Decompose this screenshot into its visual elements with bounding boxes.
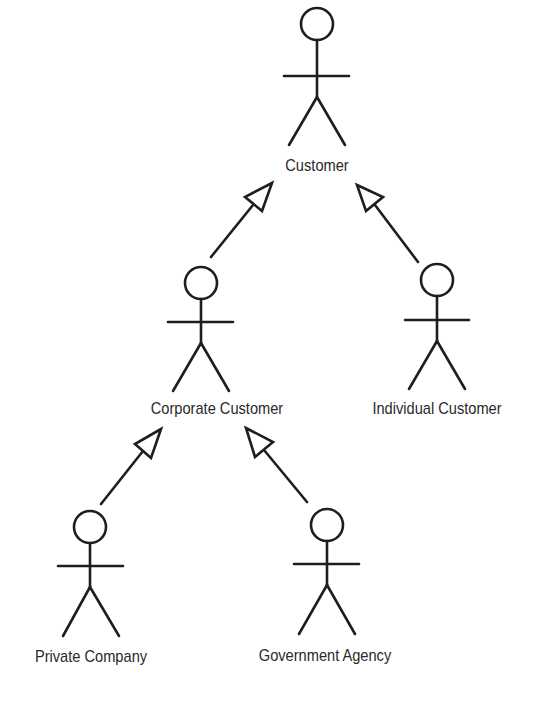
diagram-canvas	[0, 0, 543, 701]
actor-label-government-agency: Government Agency	[259, 646, 391, 666]
actor-leg-left	[289, 97, 317, 145]
arrow-line	[375, 205, 418, 262]
actor-leg-right	[437, 341, 465, 389]
actor-head	[301, 8, 333, 40]
hollow-triangle-arrowhead-icon	[246, 428, 273, 457]
generalization-arrow-corporate-to-customer[interactable]	[211, 183, 272, 257]
actor-leg-left	[299, 585, 327, 634]
actor-corporate-customer[interactable]	[168, 267, 233, 391]
actor-head	[74, 511, 106, 543]
hollow-triangle-arrowhead-icon	[135, 429, 161, 458]
actor-leg-left	[63, 587, 90, 636]
actor-label-individual-customer: Individual Customer	[372, 399, 501, 419]
arrow-line	[211, 205, 253, 257]
generalization-arrow-individual-to-customer[interactable]	[357, 185, 418, 262]
actor-head	[311, 509, 343, 541]
actor-leg-left	[173, 343, 201, 391]
hollow-triangle-arrowhead-icon	[357, 185, 383, 211]
actor-private-company[interactable]	[58, 511, 123, 636]
generalization-arrow-government-to-corporate[interactable]	[246, 428, 307, 502]
actor-label-customer: Customer	[285, 156, 348, 176]
actor-leg-right	[327, 585, 355, 634]
actor-head	[185, 267, 217, 299]
actor-government-agency[interactable]	[294, 509, 359, 634]
actor-leg-right	[317, 97, 345, 145]
actor-customer[interactable]	[284, 8, 349, 145]
actor-leg-right	[90, 587, 119, 636]
arrow-line	[101, 451, 143, 504]
actor-leg-right	[201, 343, 229, 391]
actor-individual-customer[interactable]	[405, 264, 469, 389]
actor-label-corporate-customer: Corporate Customer	[151, 399, 283, 419]
actor-label-private-company: Private Company	[35, 647, 147, 667]
arrow-line	[264, 450, 307, 502]
actor-leg-left	[409, 341, 437, 389]
actor-head	[421, 264, 453, 296]
generalization-arrow-private-to-corporate[interactable]	[101, 429, 161, 504]
hollow-triangle-arrowhead-icon	[245, 183, 272, 211]
